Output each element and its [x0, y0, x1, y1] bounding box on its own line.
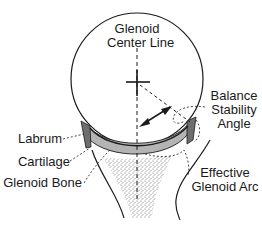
label-line: Stability [207, 103, 261, 117]
glenoid-bone-stipple [103, 155, 172, 218]
label-line: Glenoid [107, 22, 167, 36]
label-balance-stability-angle: Balance Stability Angle [207, 89, 261, 131]
leader-labrum [63, 134, 84, 139]
label-glenoid-center-line: Glenoid Center Line [107, 22, 167, 50]
label-text: Glenoid Bone [3, 175, 82, 190]
label-line: Glenoid Arc [188, 180, 262, 194]
label-text: Labrum [18, 131, 62, 146]
label-line: Angle [207, 117, 261, 131]
label-text: Cartilage [18, 154, 70, 169]
label-line: Balance [207, 89, 261, 103]
label-labrum: Labrum [10, 132, 62, 146]
label-glenoid-bone: Glenoid Bone [2, 176, 82, 190]
label-line: Center Line [107, 36, 167, 50]
leader-cartilage [70, 148, 90, 161]
label-line: Effective [188, 166, 262, 180]
label-effective-glenoid-arc: Effective Glenoid Arc [188, 166, 262, 194]
label-cartilage: Cartilage [8, 155, 70, 169]
leader-glenoid-bone [84, 150, 110, 183]
